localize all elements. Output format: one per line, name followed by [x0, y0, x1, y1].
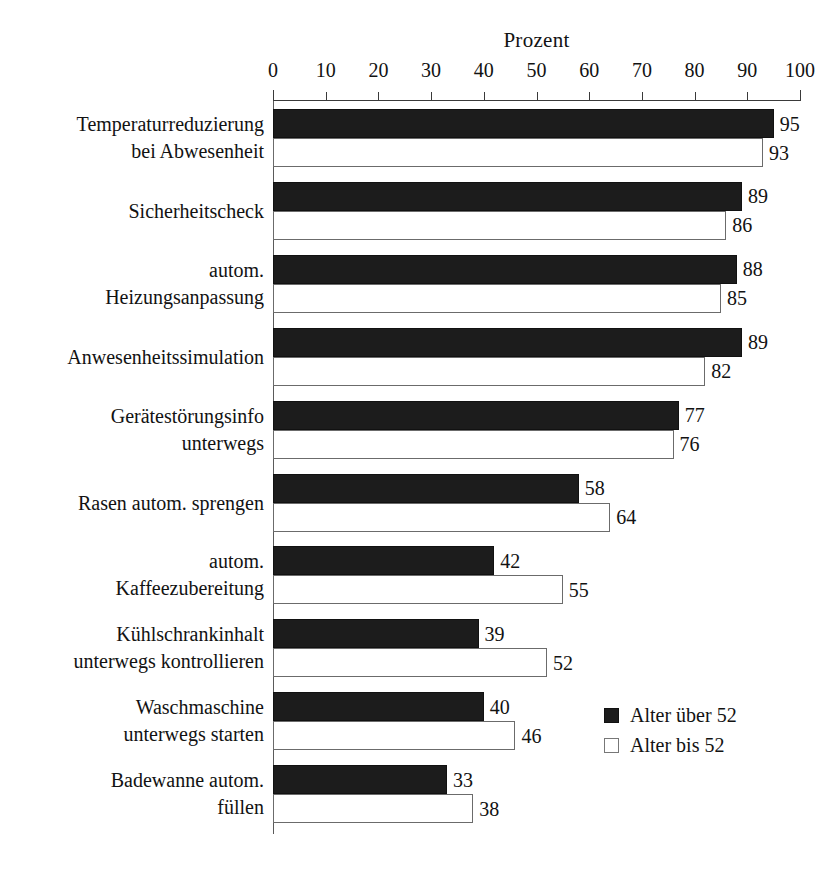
bar-alter-bis-52: [273, 357, 705, 386]
legend-item: Alter bis 52: [604, 730, 819, 760]
bar-value-label: 93: [769, 143, 789, 163]
bar-alter-bis-52: [273, 721, 515, 750]
category-label-line: Gerätestörungsinfo: [14, 403, 264, 430]
category-label-line: unterwegs: [14, 430, 264, 457]
x-tick-mark-60: [589, 92, 590, 101]
category-label: Kühlschrankinhaltunterwegs kontrollieren: [14, 621, 264, 675]
category-label-line: bei Abwesenheit: [14, 138, 264, 165]
legend-swatch-dark-icon: [604, 708, 619, 723]
x-tick-label-50: 50: [527, 58, 547, 82]
x-tick-mark-40: [484, 92, 485, 101]
category-label: Rasen autom. sprengen: [14, 490, 264, 517]
x-tick-mark-90: [747, 92, 748, 101]
bar-alter-ueber-52: [273, 474, 579, 503]
bar-value-label: 64: [616, 507, 636, 527]
bar-group: Sicherheitscheck8986: [0, 174, 825, 247]
bar-value-label: 95: [780, 114, 800, 134]
bar-alter-ueber-52: [273, 328, 742, 357]
bar-alter-bis-52: [273, 211, 726, 240]
bar-value-label: 55: [569, 580, 589, 600]
bar-group: Rasen autom. sprengen5864: [0, 466, 825, 539]
bar-alter-bis-52: [273, 430, 674, 459]
x-tick-mark-70: [642, 92, 643, 101]
bar-alter-ueber-52: [273, 109, 774, 138]
x-tick-mark-100: [800, 90, 801, 101]
bar-value-label: 58: [585, 478, 605, 498]
category-label-line: Temperaturreduzierung: [14, 111, 264, 138]
bar-group: Anwesenheitssimulation8982: [0, 320, 825, 393]
category-label: autom.Heizungsanpassung: [14, 257, 264, 311]
bar-alter-ueber-52: [273, 692, 484, 721]
category-label-line: Badewanne autom.: [14, 767, 264, 794]
bar-alter-ueber-52: [273, 401, 679, 430]
bar-alter-ueber-52: [273, 619, 479, 648]
category-label: Badewanne autom.füllen: [14, 767, 264, 821]
axis-title-prozent: Prozent: [273, 28, 800, 53]
x-tick-label-10: 10: [316, 58, 336, 82]
category-label: Waschmaschineunterwegs starten: [14, 694, 264, 748]
x-tick-label-20: 20: [368, 58, 388, 82]
x-tick-mark-0: [273, 90, 274, 101]
category-label: Temperaturreduzierungbei Abwesenheit: [14, 111, 264, 165]
bar-value-label: 42: [500, 551, 520, 571]
bar-value-label: 52: [553, 653, 573, 673]
category-label: Sicherheitscheck: [14, 198, 264, 225]
bar-alter-ueber-52: [273, 182, 742, 211]
legend-swatch-light-icon: [604, 738, 619, 753]
x-tick-label-30: 30: [421, 58, 441, 82]
bar-alter-bis-52: [273, 284, 721, 313]
bar-alter-bis-52: [273, 794, 473, 823]
bar-value-label: 40: [490, 697, 510, 717]
category-label-line: Waschmaschine: [14, 694, 264, 721]
x-tick-mark-20: [378, 92, 379, 101]
bar-group: Temperaturreduzierungbei Abwesenheit9593: [0, 101, 825, 174]
x-tick-mark-10: [326, 92, 327, 101]
bar-alter-ueber-52: [273, 255, 737, 284]
x-axis-tick-labels: 0102030405060708090100: [273, 58, 800, 84]
category-label: Anwesenheitssimulation: [14, 344, 264, 371]
x-tick-mark-80: [695, 92, 696, 101]
bar-value-label: 77: [685, 405, 705, 425]
bar-value-label: 46: [521, 726, 541, 746]
bar-alter-bis-52: [273, 648, 547, 677]
bar-value-label: 89: [748, 186, 768, 206]
x-tick-label-0: 0: [268, 58, 278, 82]
category-label-line: füllen: [14, 794, 264, 821]
x-tick-label-100: 100: [785, 58, 815, 82]
bar-value-label: 82: [711, 361, 731, 381]
bar-value-label: 89: [748, 332, 768, 352]
bar-alter-bis-52: [273, 575, 563, 604]
x-tick-label-40: 40: [474, 58, 494, 82]
category-label-line: autom.: [14, 257, 264, 284]
bar-alter-ueber-52: [273, 765, 447, 794]
bar-alter-ueber-52: [273, 546, 494, 575]
bar-value-label: 76: [680, 434, 700, 454]
bar-value-label: 88: [743, 259, 763, 279]
bar-group: Gerätestörungsinfounterwegs7776: [0, 393, 825, 466]
percent-bar-chart: Prozent 0102030405060708090100 Temperatu…: [0, 0, 825, 870]
bar-group: autom.Kaffeezubereitung4255: [0, 538, 825, 611]
category-label-line: Anwesenheitssimulation: [14, 344, 264, 371]
x-tick-label-90: 90: [737, 58, 757, 82]
bar-alter-bis-52: [273, 138, 763, 167]
category-label-line: Kaffeezubereitung: [14, 575, 264, 602]
category-label-line: autom.: [14, 548, 264, 575]
x-tick-label-60: 60: [579, 58, 599, 82]
bar-value-label: 85: [727, 288, 747, 308]
bar-value-label: 86: [732, 215, 752, 235]
category-label-line: unterwegs starten: [14, 721, 264, 748]
legend-item: Alter über 52: [604, 700, 819, 730]
bar-group: Badewanne autom.füllen3338: [0, 757, 825, 830]
legend-label: Alter bis 52: [630, 734, 724, 757]
bar-group: Kühlschrankinhaltunterwegs kontrollieren…: [0, 611, 825, 684]
x-tick-label-80: 80: [685, 58, 705, 82]
category-label: Gerätestörungsinfounterwegs: [14, 403, 264, 457]
category-label-line: Heizungsanpassung: [14, 284, 264, 311]
bar-value-label: 39: [485, 624, 505, 644]
category-label-line: Kühlschrankinhalt: [14, 621, 264, 648]
legend-label: Alter über 52: [630, 704, 737, 727]
bar-alter-bis-52: [273, 503, 610, 532]
category-label-line: Sicherheitscheck: [14, 198, 264, 225]
bar-value-label: 38: [479, 799, 499, 819]
chart-legend: Alter über 52Alter bis 52: [604, 700, 819, 760]
